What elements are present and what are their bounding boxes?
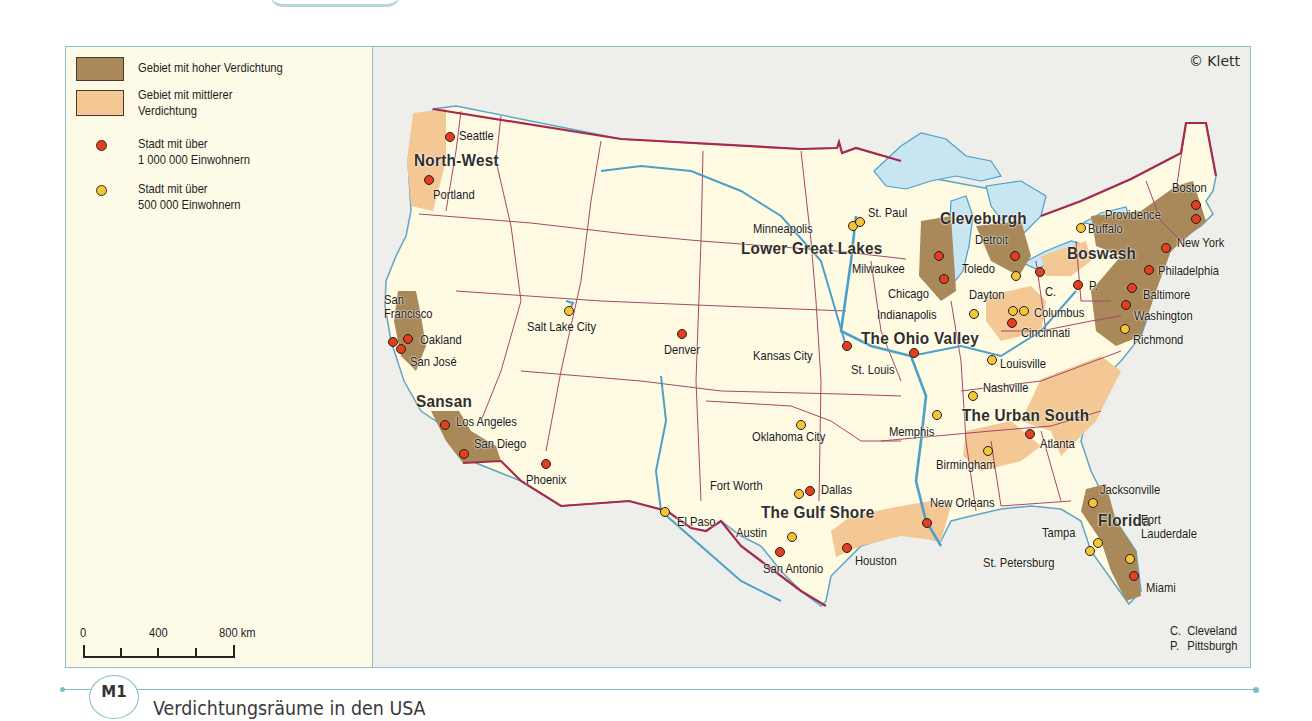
city-label-memphis: Memphis <box>889 425 934 439</box>
city-dot-richmond-icon <box>1120 324 1130 334</box>
city-dot-los-angeles-icon <box>440 420 450 430</box>
region-label-cleveburgh: Cleveburgh <box>940 210 1027 228</box>
city-label-st-paul: St. Paul <box>868 206 907 220</box>
abbr-cleveland: C.Cleveland <box>1170 623 1238 638</box>
city-dot-austin-icon <box>787 532 797 542</box>
city-dot-dallas-icon <box>805 486 815 496</box>
legend-item-medium-density: Gebiet mit mittlerer Verdichtung <box>66 87 248 119</box>
region-label-the-ohio-valley: The Ohio Valley <box>861 330 979 348</box>
city-dot-salt-lake-city-icon <box>564 306 574 316</box>
legend-item-high-density: Gebiet mit hoher Verdichtung <box>66 57 306 81</box>
region-label-the-urban-south: The Urban South <box>962 407 1089 425</box>
high-density-swatch <box>76 57 124 81</box>
figure-badge: M1 <box>89 675 139 719</box>
city-dot-baltimore-icon <box>1127 283 1137 293</box>
city-label-kansas-city: Kansas City <box>753 349 813 363</box>
caption-rule-end-right <box>1253 687 1259 693</box>
city-label-jacksonville: Jacksonville <box>1100 483 1160 497</box>
legend-label: Gebiet mit mittlerer Verdichtung <box>138 87 248 119</box>
city-dot-san-diego-icon <box>459 449 469 459</box>
city-label-buffalo: Buffalo <box>1088 222 1123 236</box>
city-dot-toledo-icon <box>1011 271 1021 281</box>
city-label-san-francisco: SanFrancisco <box>384 293 432 321</box>
city-label-oklahoma-city: Oklahoma City <box>752 430 825 444</box>
city-label-louisville: Louisville <box>1000 357 1046 371</box>
city-label-chicago: Chicago <box>888 287 929 301</box>
legend-label: Stadt mit über 500 000 Einwohnern <box>138 181 257 213</box>
city-dot-el-paso-icon <box>660 507 670 517</box>
city-label-austin: Austin <box>736 526 767 540</box>
city-label-los-angeles: Los Angeles <box>456 415 517 429</box>
region-label-sansan: Sansan <box>416 393 472 411</box>
region-label-north-west: North-West <box>414 152 499 170</box>
legend-label: Gebiet mit hoher Verdichtung <box>138 60 283 76</box>
city-label-minneapolis: Minneapolis <box>753 222 813 236</box>
city-dot-tampa-icon <box>1093 538 1103 548</box>
city-dot-boston-icon <box>1191 200 1201 210</box>
city-dot-c-icon <box>1035 267 1045 277</box>
city-dot-atlanta-icon <box>1025 429 1035 439</box>
city-label-baltimore: Baltimore <box>1143 288 1190 302</box>
city-dot-cincinnati-icon <box>1007 318 1017 328</box>
city-dot-san-jos-icon <box>396 344 406 354</box>
city-dot-st-petersburg-icon <box>1085 546 1095 556</box>
city-dot-memphis-icon <box>932 410 942 420</box>
big-city-dot-icon <box>96 140 107 151</box>
city-dot-new-orleans-icon <box>922 518 932 528</box>
abbr-pittsburgh: P.Pittsburgh <box>1170 638 1238 653</box>
city-dot-chicago-icon <box>939 274 949 284</box>
region-label-the-gulf-shore: The Gulf Shore <box>761 504 874 522</box>
city-label-p: P. <box>1089 279 1098 293</box>
city-dot-portland-icon <box>424 175 434 185</box>
city-label-boston: Boston <box>1172 181 1207 195</box>
city-label-birmingham: Birmingham <box>936 458 996 472</box>
scale-label-0: 0 <box>80 625 86 640</box>
city-dot-louisville-icon <box>987 355 997 365</box>
region-label-lower-great-lakes: Lower Great Lakes <box>741 240 883 258</box>
medium-density-swatch <box>76 90 124 116</box>
city-label-phoenix: Phoenix <box>526 473 566 487</box>
city-label-detroit: Detroit <box>975 233 1008 247</box>
mid-city-dot-icon <box>96 185 107 196</box>
city-label-portland: Portland <box>433 188 475 202</box>
city-label-denver: Denver <box>664 343 700 357</box>
legend-item-mid-city: Stadt mit über 500 000 Einwohnern <box>66 181 257 213</box>
city-dot-providence-icon <box>1191 214 1201 224</box>
city-dot-p-icon <box>1073 280 1083 290</box>
city-dot-houston-icon <box>842 543 852 553</box>
city-dot-jacksonville-icon <box>1088 498 1098 508</box>
city-label-toledo: Toledo <box>962 262 995 276</box>
city-dot-st-paul-icon <box>855 217 865 227</box>
city-label-philadelphia: Philadelphia <box>1158 264 1219 278</box>
city-label-new-york: New York <box>1177 236 1224 250</box>
city-dot-st-louis-icon <box>909 348 919 358</box>
city-dot-washington-icon <box>1121 300 1131 310</box>
caption-rule-end-left <box>60 687 65 692</box>
city-label-indianapolis: Indianapolis <box>877 308 937 322</box>
city-dot-oakland-icon <box>403 334 413 344</box>
region-label-boswash: Boswash <box>1067 245 1136 263</box>
city-label-el-paso: El Paso <box>677 515 716 529</box>
city-dot-nashville-icon <box>968 391 978 401</box>
city-dot-dayton-icon <box>1008 306 1018 316</box>
city-dot-miami-icon <box>1129 571 1139 581</box>
city-dot-fort-lauderdale-icon <box>1125 554 1135 564</box>
scale-label-800: 800 km <box>219 625 256 640</box>
copyright-notice: © Klett <box>1189 53 1240 69</box>
city-dot-columbus-icon <box>1019 306 1029 316</box>
city-label-miami: Miami <box>1146 581 1176 595</box>
city-dot-kansas-city-icon <box>842 341 852 351</box>
city-dot-new-york-icon <box>1161 243 1171 253</box>
city-label-dallas: Dallas <box>821 483 852 497</box>
caption-rule <box>62 689 1256 690</box>
city-label-new-orleans: New Orleans <box>930 496 995 510</box>
city-label-salt-lake-city: Salt Lake City <box>527 320 596 334</box>
city-label-tampa: Tampa <box>1042 526 1076 540</box>
city-label-milwaukee: Milwaukee <box>852 262 905 276</box>
city-label-cincinnati: Cincinnati <box>1021 326 1070 340</box>
city-dot-detroit-icon <box>1010 251 1020 261</box>
city-dot-phoenix-icon <box>541 459 551 469</box>
city-dot-seattle-icon <box>445 132 455 142</box>
figure-caption: Verdichtungsräume in den USA <box>153 697 426 719</box>
city-label-fort-worth: Fort Worth <box>710 479 763 493</box>
